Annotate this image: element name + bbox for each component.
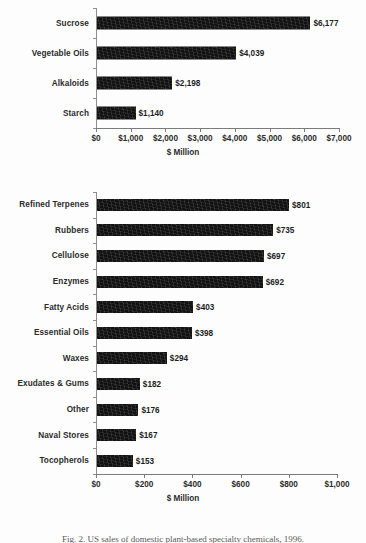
bar [96,455,133,467]
bar-row: Naval Stores$167 [0,422,366,448]
bar-chart-top: Sucrose$6,177Vegetable Oils$4,039Alkaloi… [0,8,366,158]
bar-category-label: Cellulose [0,251,96,260]
bar-category-label: Sucrose [0,19,96,28]
chart-bottom-y-axis [96,192,97,474]
x-axis-tick [131,128,132,132]
bar-row: Other$176 [0,397,366,423]
bar [96,199,289,211]
bar-category-label: Waxes [0,354,96,363]
bar-value-label: $398 [192,328,213,337]
x-axis-tick-label: $2,000 [153,134,178,143]
bar-category-label: Refined Terpenes [0,200,96,209]
x-axis-tick [337,474,338,478]
y-axis-tick [93,68,97,69]
bar [96,404,138,416]
bar-row: Enzymes$692 [0,269,366,295]
bar-plot-cell: $692 [96,269,366,295]
x-axis-tick [96,128,97,132]
bar-row: Rubbers$735 [0,218,366,244]
bar-plot-cell: $182 [96,371,366,397]
x-axis-tick [235,128,236,132]
x-axis-tick [289,474,290,478]
chart-bottom-x-axis-title: $ Million [0,494,366,503]
bar-category-label: Starch [0,109,96,118]
bar [96,17,310,30]
bar-plot-cell: $2,198 [96,68,366,98]
bar-category-label: Essential Oils [0,328,96,337]
bar [96,250,264,262]
x-axis-tick [304,128,305,132]
x-axis-tick-label: $800 [280,480,298,489]
bar-value-label: $2,198 [172,79,200,88]
y-axis-tick [93,346,97,347]
y-axis-tick [93,448,97,449]
y-axis-tick [93,397,97,398]
x-axis-tick [339,128,340,132]
x-axis-tick [270,128,271,132]
x-axis-tick [96,474,97,478]
bar-plot-cell: $1,140 [96,98,366,128]
bar-row: Refined Terpenes$801 [0,192,366,218]
y-axis-tick [93,294,97,295]
bar-row: Essential Oils$398 [0,320,366,346]
y-axis-tick [93,243,97,244]
bar-plot-cell: $153 [96,448,366,474]
bar-plot-cell: $697 [96,243,366,269]
bar-value-label: $697 [264,251,285,260]
x-axis-tick-label: $1,000 [324,480,349,489]
bar-value-label: $4,039 [236,49,264,58]
bar-plot-cell: $6,177 [96,8,366,38]
bar-value-label: $167 [136,431,157,440]
y-axis-tick [93,8,97,9]
x-axis-tick-label: $400 [183,480,201,489]
x-axis-tick [241,474,242,478]
bar-value-label: $403 [193,303,214,312]
bar-row: Waxes$294 [0,346,366,372]
bar [96,47,236,60]
x-axis-tick [200,128,201,132]
y-axis-tick [93,422,97,423]
bar-plot-cell: $398 [96,320,366,346]
figure-caption: Fig. 2. US sales of domestic plant-based… [0,534,366,543]
x-axis-tick-label: $1,000 [118,134,143,143]
bar-row: Exudates & Gums$182 [0,371,366,397]
bar-category-label: Exudates & Gums [0,379,96,388]
bar-value-label: $176 [138,405,159,414]
bar-value-label: $294 [167,354,188,363]
bar-chart-bottom: Refined Terpenes$801Rubbers$735Cellulose… [0,192,366,492]
y-axis-tick [93,192,97,193]
bar-category-label: Vegetable Oils [0,49,96,58]
bar-row: Vegetable Oils$4,039 [0,38,366,68]
x-axis-tick [144,474,145,478]
bar-plot-cell: $4,039 [96,38,366,68]
bar-plot-cell: $735 [96,218,366,244]
bar [96,352,167,364]
bar-category-label: Tocopherols [0,456,96,465]
x-axis-tick-label: $0 [91,134,100,143]
bar [96,378,140,390]
x-axis-tick-label: $200 [135,480,153,489]
figure-page: Sucrose$6,177Vegetable Oils$4,039Alkaloi… [0,0,366,543]
bar-plot-cell: $176 [96,397,366,423]
chart-top-y-axis [96,8,97,128]
bar [96,429,136,441]
x-axis-tick-label: $600 [231,480,249,489]
y-axis-tick [93,269,97,270]
bar [96,224,273,236]
bar-row: Sucrose$6,177 [0,8,366,38]
y-axis-tick [93,320,97,321]
x-axis-tick [192,474,193,478]
bar-category-label: Naval Stores [0,431,96,440]
bar-plot-cell: $294 [96,346,366,372]
bar-value-label: $182 [140,379,161,388]
x-axis-tick-label: $4,000 [222,134,247,143]
x-axis-tick-label: $6,000 [292,134,317,143]
bar-row: Alkaloids$2,198 [0,68,366,98]
bar-category-label: Other [0,405,96,414]
bar-value-label: $6,177 [310,19,338,28]
chart-top-x-axis-title: $ Million [0,148,366,157]
y-axis-tick [93,98,97,99]
bar-plot-cell: $801 [96,192,366,218]
chart-bottom-x-axis: $0$200$400$600$800$1,000 [96,474,337,475]
bar [96,327,192,339]
